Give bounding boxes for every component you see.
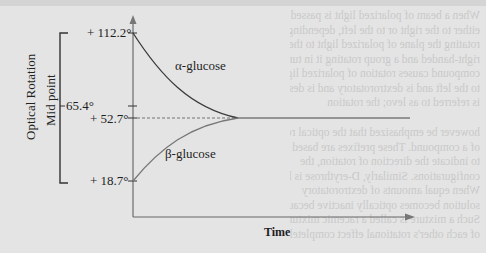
x-axis-title: Time xyxy=(264,225,290,240)
x-axis-arrow-icon xyxy=(405,214,415,221)
midpoint-label: Mid point xyxy=(43,74,59,126)
alpha-glucose-label: α-glucose xyxy=(175,58,226,74)
beta-glucose-label: β-glucose xyxy=(165,146,216,162)
y-axis-arrow-icon xyxy=(130,15,137,24)
tick-label-18: + 18.7° xyxy=(90,173,129,189)
y-axis-title: Optical Rotation xyxy=(23,54,39,140)
mutarotation-diagram xyxy=(0,0,486,253)
tick-label-52: + 52.7° xyxy=(90,111,129,127)
alpha-glucose-curve xyxy=(133,33,238,118)
tick-label-112: + 112.2° xyxy=(87,25,132,41)
